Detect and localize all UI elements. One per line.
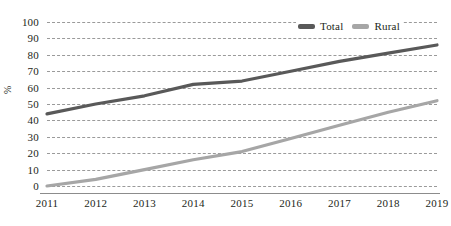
plot-area [47, 22, 437, 186]
x-axis-tick-label: 2014 [182, 198, 205, 209]
x-axis-tick-label: 2019 [426, 198, 449, 209]
legend-label: Total [320, 21, 343, 32]
y-axis-tick-labels: 0102030405060708090100 [0, 22, 43, 186]
legend-swatch-icon [298, 24, 315, 29]
gridline [47, 120, 437, 121]
gridline [47, 104, 437, 105]
y-axis-tick-label: 0 [33, 181, 39, 192]
y-axis-tick-label: 30 [28, 131, 39, 142]
gridline [47, 153, 437, 154]
gridline [47, 55, 437, 56]
x-axis-tick-label: 2015 [231, 198, 254, 209]
x-axis-tick-label: 2012 [84, 198, 107, 209]
line-chart: % 0102030405060708090100 201120122013201… [0, 0, 451, 226]
legend-swatch-icon [352, 24, 369, 29]
gridline [47, 170, 437, 171]
gridline [47, 88, 437, 89]
y-axis-tick-label: 50 [28, 99, 39, 110]
x-axis-tick-label: 2011 [36, 198, 58, 209]
y-axis-tick-label: 80 [28, 49, 39, 60]
x-axis-tick-label: 2018 [377, 198, 400, 209]
legend-item-rural[interactable]: Rural [352, 21, 399, 32]
legend-item-total[interactable]: Total [298, 21, 343, 32]
x-axis-tick-label: 2016 [279, 198, 302, 209]
x-axis-tick-label: 2013 [133, 198, 156, 209]
x-axis-tick-labels: 201120122013201420152016201720182019 [47, 198, 437, 216]
y-axis-tick-label: 10 [28, 164, 39, 175]
y-axis-tick-label: 20 [28, 148, 39, 159]
y-axis-tick-label: 60 [28, 82, 39, 93]
gridline [47, 38, 437, 39]
gridline [47, 71, 437, 72]
chart-legend: TotalRural [296, 20, 402, 33]
x-axis-line [40, 193, 440, 194]
y-axis-tick-label: 40 [28, 115, 39, 126]
gridline [47, 137, 437, 138]
x-axis-tick-label: 2017 [328, 198, 351, 209]
gridline [47, 186, 437, 187]
y-axis-tick-label: 70 [28, 66, 39, 77]
y-axis-tick-label: 100 [22, 17, 39, 28]
legend-label: Rural [374, 21, 399, 32]
y-axis-tick-label: 90 [28, 33, 39, 44]
